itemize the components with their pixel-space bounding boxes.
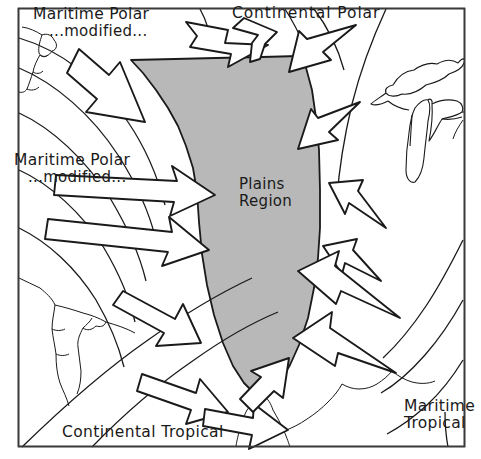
map-drawing xyxy=(0,0,481,459)
label-maritime-polar-west: Maritime Polar ...modified... xyxy=(14,152,130,186)
label-maritime-polar-west-line1: Maritime Polar xyxy=(14,151,130,169)
label-maritime-tropical-line2: Tropical xyxy=(404,415,475,432)
label-continental-tropical: Continental Tropical xyxy=(62,424,224,441)
label-maritime-polar-north: Maritime Polar ...modified... xyxy=(33,6,149,40)
air-mass-map-figure: Maritime Polar ...modified... Maritime P… xyxy=(0,0,481,459)
label-maritime-polar-west-line2: ...modified... xyxy=(14,169,130,186)
label-plains-region-line2: Region xyxy=(239,193,292,210)
label-maritime-tropical-line1: Maritime xyxy=(404,397,475,415)
label-continental-polar: Continental Polar xyxy=(232,5,380,22)
label-plains-region-line1: Plains xyxy=(239,175,285,193)
label-continental-polar-line1: Continental Polar xyxy=(232,4,380,22)
label-maritime-tropical: Maritime Tropical xyxy=(404,398,475,433)
label-maritime-polar-north-line1: Maritime Polar xyxy=(33,5,149,23)
label-continental-tropical-line1: Continental Tropical xyxy=(62,423,224,441)
label-maritime-polar-north-line2: ...modified... xyxy=(33,23,149,40)
label-plains-region: Plains Region xyxy=(239,176,292,210)
